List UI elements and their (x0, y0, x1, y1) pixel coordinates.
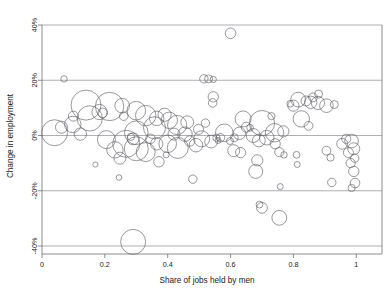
y-tick-label: 0% (30, 130, 39, 141)
y-tick-label: -40% (30, 237, 39, 254)
bubble-point (119, 112, 128, 121)
bubble-point (201, 119, 209, 127)
bubble-point (277, 184, 283, 190)
y-tick-label: 40% (30, 17, 39, 32)
bubble-point (210, 76, 216, 82)
bubble-point (93, 162, 98, 167)
bubble-point (233, 127, 245, 139)
bubble-point (107, 142, 123, 158)
bubble-point (124, 137, 148, 161)
bubble-point (208, 99, 217, 108)
y-tick-label: 20% (30, 72, 39, 87)
bubble-point (151, 138, 163, 150)
bubble-point (291, 92, 306, 107)
bubble-point (348, 143, 360, 155)
axes (42, 25, 382, 254)
bubble-point (167, 137, 188, 158)
bubble-point (268, 113, 275, 120)
bubble-point (205, 135, 218, 148)
x-tick-label: 0.4 (163, 260, 173, 269)
bubble-point (200, 75, 208, 83)
y-axis-title: Change in employment (6, 93, 15, 178)
bubble-point (337, 138, 348, 149)
bubble-series (42, 28, 360, 254)
bubble-point (327, 154, 334, 161)
bubble-point (136, 105, 156, 125)
bubble-point (322, 146, 331, 155)
bubble-point (320, 99, 334, 113)
bubble-point (77, 106, 102, 131)
bubble-point (98, 108, 108, 118)
bubble-point (330, 101, 338, 109)
bubble-point (97, 131, 115, 149)
x-tick-label: 1 (354, 260, 358, 269)
bubble-point (349, 166, 359, 176)
x-axis-title: Share of jobs held by men (159, 276, 255, 285)
bubble-point (294, 162, 300, 168)
bubble-point (293, 111, 309, 127)
bubble-point (116, 175, 122, 181)
bubble-point (127, 133, 139, 145)
bubble-point (252, 134, 265, 147)
bubble-point (61, 76, 67, 82)
tick-marks (38, 25, 356, 258)
x-tick-label: 0.8 (288, 260, 298, 269)
bubble-point (272, 210, 287, 225)
x-tick-labels: 00.20.40.60.81 (40, 260, 358, 269)
bubble-point (154, 157, 164, 167)
bubble-point (208, 92, 218, 102)
bubble-point (181, 116, 194, 129)
bubble-point (225, 28, 236, 39)
y-tick-labels: 40%20%0%-20%-40% (30, 17, 39, 254)
bubble-point (189, 175, 197, 183)
bubble-chart: 00.20.40.60.81 40%20%0%-20%-40% Share of… (0, 0, 387, 296)
bubble-point (343, 148, 353, 158)
bubble-point (236, 148, 246, 158)
bubble-point (228, 145, 240, 157)
bubble-point (127, 101, 146, 120)
bubble-point (74, 128, 86, 140)
x-tick-label: 0.6 (226, 260, 236, 269)
bubble-point (293, 151, 300, 158)
bubble-point (55, 121, 67, 133)
bubble-point (328, 178, 336, 186)
bubble-point (189, 138, 203, 152)
bubble-point (136, 143, 155, 162)
bubble-point (121, 229, 146, 254)
x-tick-label: 0 (40, 260, 44, 269)
x-tick-label: 0.2 (100, 260, 110, 269)
bubble-point (301, 96, 311, 106)
bubble-point (249, 164, 263, 178)
y-tick-label: -20% (30, 182, 39, 199)
chart-canvas: 00.20.40.60.81 40%20%0%-20%-40% Share of… (0, 0, 387, 296)
